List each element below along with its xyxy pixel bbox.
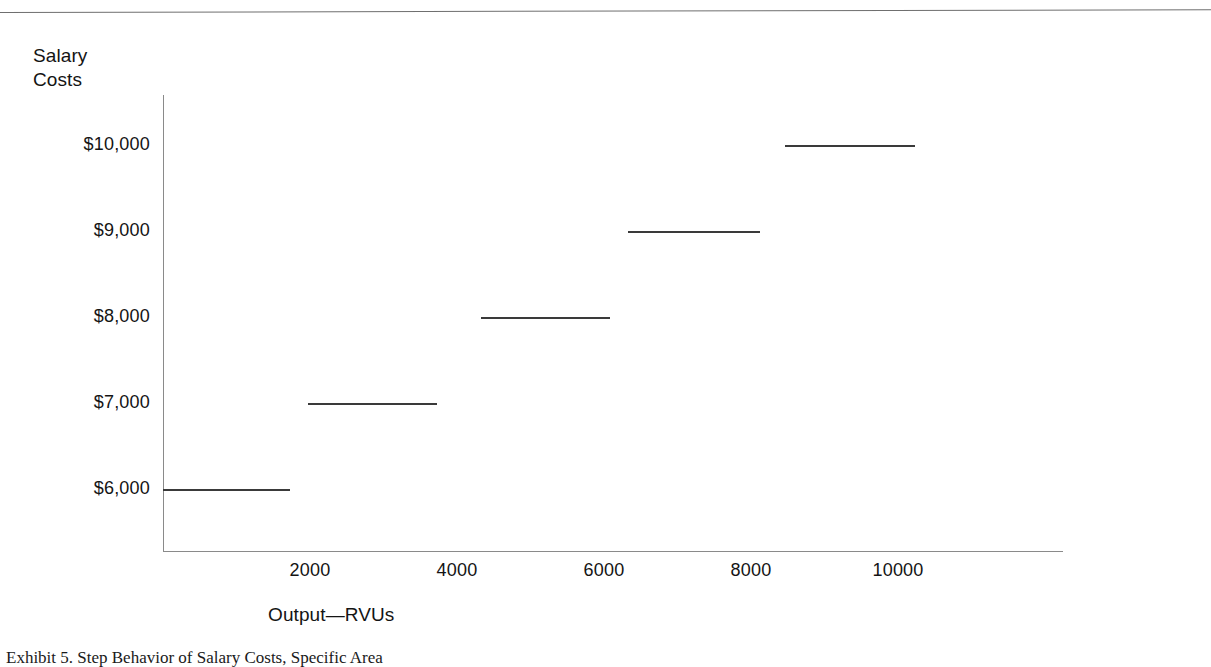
y-axis-title-line-1: Salary (33, 45, 87, 66)
x-axis-tick-label: 2000 (250, 560, 370, 581)
step-segment (481, 317, 610, 319)
top-rule-divider (0, 9, 1211, 13)
x-axis-tick-label: 6000 (544, 560, 664, 581)
y-axis-tick-label: $7,000 (30, 392, 150, 413)
x-axis-title: Output—RVUs (268, 604, 394, 626)
step-segment (308, 403, 437, 405)
y-axis-tick-label: $6,000 (30, 478, 150, 499)
y-axis-line (163, 95, 164, 552)
figure-caption: Exhibit 5. Step Behavior of Salary Costs… (6, 648, 383, 667)
x-axis-tick-label: 10000 (838, 560, 958, 581)
y-axis-title-line-2: Costs (33, 69, 82, 90)
step-segment (163, 489, 290, 491)
y-axis-tick-label: $8,000 (30, 306, 150, 327)
figure-step-cost-chart: SalaryCosts $10,000$9,000$8,000$7,000$6,… (0, 0, 1211, 667)
y-axis-title: SalaryCosts (33, 44, 87, 92)
x-axis-tick-label: 8000 (691, 560, 811, 581)
y-axis-tick-label: $9,000 (30, 220, 150, 241)
y-axis-tick-label: $10,000 (30, 134, 150, 155)
x-axis-line (163, 551, 1063, 552)
x-axis-tick-label: 4000 (397, 560, 517, 581)
step-segment (785, 145, 915, 147)
step-segment (628, 231, 760, 233)
